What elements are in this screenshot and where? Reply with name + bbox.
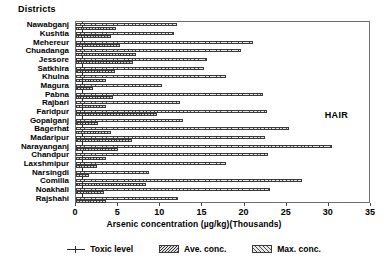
bar-group [76, 135, 369, 144]
category-label: Rajshahi [36, 195, 69, 203]
x-tick-mark [159, 203, 160, 206]
bar-ave-conc [76, 79, 106, 82]
legend-item-max-conc: Max. conc. [252, 244, 320, 254]
bar-ave-conc [76, 139, 132, 142]
bar-max-conc [76, 162, 226, 165]
x-tick-label: 25 [281, 207, 291, 217]
legend-label-ave-conc: Ave. conc. [184, 244, 226, 254]
x-tick-mark [328, 203, 329, 206]
bar-ave-conc [76, 53, 136, 56]
bar-group [76, 152, 369, 161]
x-tick-label: 10 [154, 207, 164, 217]
bar-ave-conc [76, 131, 111, 134]
bar-group [76, 91, 369, 100]
bar-ave-conc [76, 61, 133, 64]
x-tick-label: 35 [365, 207, 375, 217]
bar-group [76, 65, 369, 74]
chart-root: Districts NawabganjKushtiaMehereurChuada… [0, 0, 388, 270]
bar-ave-conc [76, 113, 157, 116]
bar-ave-conc [76, 183, 146, 186]
bar-ave-conc [76, 174, 89, 177]
bar-group [76, 178, 369, 187]
bar-group [76, 39, 369, 48]
x-axis-title: Arsenic concentration (µg/kg)(Thousands) [0, 219, 388, 229]
bar-group [76, 83, 369, 92]
bar-ave-conc [76, 122, 98, 125]
bar-group [76, 169, 369, 178]
y-axis-title: Districts [18, 4, 56, 14]
bar-ave-conc [76, 191, 104, 194]
legend-label-toxic-level: Toxic level [90, 244, 133, 254]
bar-group [76, 31, 369, 40]
x-tick-label: 20 [239, 207, 249, 217]
x-tick-label: 5 [115, 207, 120, 217]
bar-ave-conc [76, 70, 115, 73]
x-tick-label: 15 [196, 207, 206, 217]
bar-ave-conc [76, 165, 97, 168]
legend-item-ave-conc: Ave. conc. [159, 244, 226, 254]
bar-ave-conc [76, 105, 106, 108]
bar-group [76, 74, 369, 83]
bar-group [76, 57, 369, 66]
bar-max-conc [76, 188, 270, 191]
x-tick-mark [286, 203, 287, 206]
x-tick-mark [75, 203, 76, 206]
bar-group [76, 48, 369, 57]
bar-group [76, 126, 369, 135]
bar-group [76, 100, 369, 109]
legend-label-max-conc: Max. conc. [277, 244, 320, 254]
x-axis-ticks: 05101520253035 [75, 203, 370, 217]
x-tick-label: 30 [323, 207, 333, 217]
x-tick-label: 0 [72, 207, 77, 217]
max-conc-swatch-icon [252, 245, 272, 253]
bar-group [76, 143, 369, 152]
category-label-column: NawabganjKushtiaMehereurChuadangaJessore… [0, 21, 72, 203]
bar-group [76, 161, 369, 170]
bar-ave-conc [76, 35, 111, 38]
x-tick-mark [370, 203, 371, 206]
toxic-level-marker-icon [67, 246, 85, 253]
ave-conc-swatch-icon [159, 245, 179, 253]
bar-group [76, 22, 369, 31]
bar-ave-conc [76, 27, 116, 30]
plot-area: HAIR [75, 21, 370, 203]
bar-ave-conc [76, 157, 106, 160]
bar-ave-conc [76, 87, 93, 90]
bar-ave-conc [76, 148, 118, 151]
x-tick-mark [244, 203, 245, 206]
bar-ave-conc [76, 96, 113, 99]
x-tick-mark [117, 203, 118, 206]
bar-group [76, 187, 369, 196]
chart-legend: Toxic level Ave. conc. Max. conc. [0, 244, 388, 254]
x-tick-mark [201, 203, 202, 206]
legend-item-toxic-level: Toxic level [67, 244, 133, 254]
hair-annotation: HAIR [325, 110, 349, 120]
bar-ave-conc [76, 44, 120, 47]
